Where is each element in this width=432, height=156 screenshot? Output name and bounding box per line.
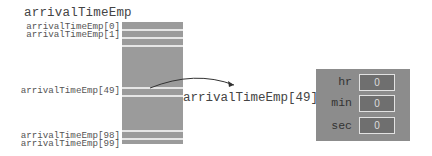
field-label-sec: sec: [320, 119, 352, 132]
field-value-min: 0: [359, 95, 395, 112]
struct-box: hr 0 min 0 sec 0: [316, 69, 410, 141]
field-label-min: min: [320, 96, 352, 109]
field-value-sec: 0: [359, 117, 395, 134]
field-label-hr: hr: [320, 75, 352, 88]
field-value-hr: 0: [359, 74, 395, 91]
pointer-label: arrivalTimeEmp[49]: [183, 91, 318, 105]
